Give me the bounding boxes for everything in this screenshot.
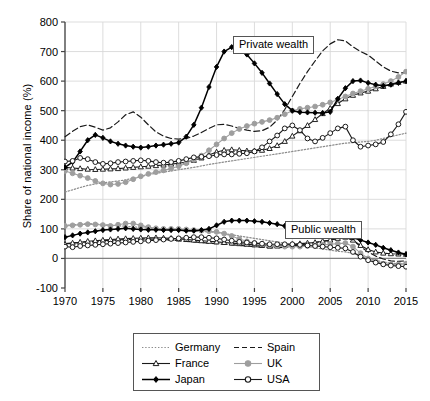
data-point-marker [116,160,121,165]
data-point-marker [366,258,371,263]
data-point-marker [343,124,348,129]
data-point-marker [351,250,356,255]
data-point-marker [93,222,98,227]
legend-swatch-spain-icon [233,342,263,353]
data-point-marker [335,245,340,250]
data-point-marker [207,148,212,153]
data-point-marker [85,243,90,248]
y-tick-label: 400 [40,134,58,146]
data-point-marker [70,245,75,250]
legend-swatch-japan-icon [141,374,171,385]
x-tick-label: 1990 [204,295,228,307]
data-point-marker [396,264,401,269]
chart-legend: GermanySpainFranceUKJapanUSA [133,333,320,391]
legend-swatch-france-icon [141,358,171,369]
legend-marker-icon [245,376,250,381]
data-point-marker [320,102,325,107]
y-tick-label: 100 [40,223,58,235]
data-point-marker [78,244,83,249]
data-point-marker [298,242,303,247]
y-tick-label: 300 [40,164,58,176]
data-point-marker [214,229,219,234]
data-point-marker [123,159,128,164]
legend-item-label: France [175,358,209,369]
legend-item-label: USA [267,374,290,385]
data-point-marker [78,173,83,178]
x-tick-label: 2015 [394,295,418,307]
data-point-marker [131,159,136,164]
data-point-marker [78,156,83,161]
legend-item-france[interactable]: France [134,358,226,369]
legend-item-label: Spain [267,342,295,353]
data-point-marker [366,86,371,91]
data-point-marker [100,161,105,166]
legend-item-usa[interactable]: USA [226,374,321,385]
legend-item-japan[interactable]: Japan [134,374,226,385]
data-point-marker [328,100,333,105]
data-point-marker [320,135,325,140]
data-point-marker [70,159,75,164]
data-point-marker [100,242,105,247]
data-point-marker [335,126,340,131]
data-point-marker [207,154,212,159]
data-point-marker [191,235,196,240]
data-point-marker [176,159,181,164]
data-point-marker [222,136,227,141]
data-point-marker [404,69,409,74]
data-point-marker [100,223,105,228]
data-point-marker [282,112,287,117]
data-point-marker [252,149,257,154]
legend-marker-icon [153,360,159,365]
data-point-marker [237,127,242,132]
data-point-marker [290,123,295,128]
data-point-marker [351,138,356,143]
data-point-marker [199,154,204,159]
data-point-marker [63,244,68,249]
legend-item-uk[interactable]: UK [226,358,321,369]
data-point-marker [244,151,249,156]
public-wealth-label: Public wealth [285,221,362,239]
data-point-marker [275,242,280,247]
data-point-marker [222,237,227,242]
data-point-marker [275,133,280,138]
data-point-marker [358,254,363,259]
data-point-marker [343,94,348,99]
data-point-marker [123,180,128,185]
data-point-marker [267,139,272,144]
legend-swatch-germany-icon [141,342,171,353]
data-point-marker [244,240,249,245]
data-point-marker [313,104,318,109]
data-point-marker [108,161,113,166]
data-point-marker [244,124,249,129]
data-point-marker [366,143,371,148]
legend-item-germany[interactable]: Germany [134,342,226,353]
data-point-marker [373,142,378,147]
legend-item-label: Germany [175,342,220,353]
data-point-marker [305,243,310,248]
x-tick-label: 2000 [280,295,304,307]
data-point-marker [100,181,105,186]
data-point-marker [176,236,181,241]
x-tick-label: 1980 [129,295,153,307]
data-point-marker [138,239,143,244]
data-point-marker [93,242,98,247]
data-point-marker [146,238,151,243]
data-point-marker [260,241,265,246]
y-tick-label: -100 [36,282,58,294]
data-point-marker [229,238,234,243]
data-point-marker [320,244,325,249]
data-point-marker [154,160,159,165]
legend-swatch-uk-icon [233,358,263,369]
legend-swatch-usa-icon [233,374,263,385]
data-point-marker [169,160,174,165]
data-point-marker [237,239,242,244]
legend-item-spain[interactable]: Spain [226,342,321,353]
data-point-marker [358,144,363,149]
data-point-marker [388,263,393,268]
data-point-marker [70,171,75,176]
data-point-marker [93,179,98,184]
data-point-marker [237,151,242,156]
data-point-marker [191,155,196,160]
data-point-marker [351,244,356,249]
data-point-marker [161,168,166,173]
